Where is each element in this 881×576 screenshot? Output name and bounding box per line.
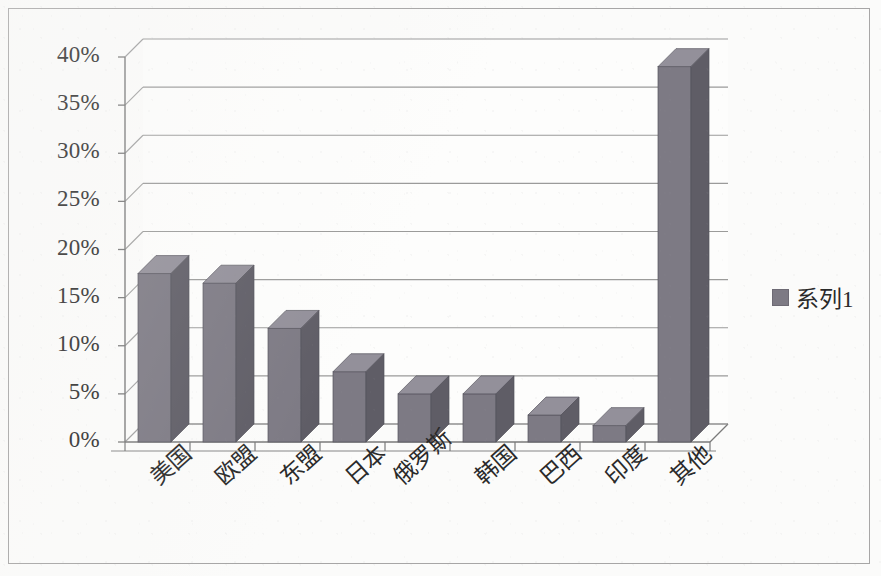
y-axis-tick-labels: 0%5%10%15%20%25%30%35%40%	[26, 0, 100, 576]
y-axis-label-40: 40%	[26, 42, 100, 68]
y-axis-label-0: 0%	[26, 427, 100, 453]
chart-legend: 系列1	[772, 280, 854, 314]
y-axis-label-35: 35%	[26, 90, 100, 116]
gridline-depth-30	[125, 135, 143, 153]
bar-日本	[333, 354, 384, 442]
floor-right-edge	[710, 424, 728, 442]
bar-俄罗斯	[398, 376, 449, 442]
bar-东盟	[268, 310, 319, 442]
bar-欧盟	[203, 265, 254, 442]
y-axis-label-5: 5%	[26, 379, 100, 405]
bar-韩国	[463, 376, 514, 442]
bar-其他	[658, 49, 709, 442]
gridline-depth-25	[125, 183, 143, 201]
y-axis-label-10: 10%	[26, 331, 100, 357]
bar-美国	[138, 256, 189, 442]
gridline-depth-20	[125, 232, 143, 250]
chart-figure: 0%5%10%15%20%25%30%35%40% 美国欧盟东盟日本俄罗斯韩国巴…	[0, 0, 881, 576]
gridline-depth-35	[125, 87, 143, 105]
legend-label-series1: 系列1	[796, 280, 854, 314]
y-axis-label-30: 30%	[26, 138, 100, 164]
y-axis-label-20: 20%	[26, 235, 100, 261]
y-axis-label-25: 25%	[26, 186, 100, 212]
y-axis-label-15: 15%	[26, 283, 100, 309]
legend-swatch-series1	[772, 289, 789, 306]
bar-chart-plot	[0, 0, 881, 576]
gridline-depth-40	[125, 39, 143, 57]
